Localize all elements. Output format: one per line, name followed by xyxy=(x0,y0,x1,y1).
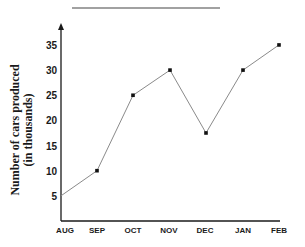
y-axis-label-wrap: Number of cars produced (in thousands) xyxy=(2,55,42,205)
data-point-marker xyxy=(168,68,172,72)
x-tick-label: SEP xyxy=(89,226,106,235)
x-tick-label: NOV xyxy=(160,226,178,235)
y-tick-label: 5 xyxy=(51,191,57,202)
data-point-marker xyxy=(241,68,245,72)
y-axis-label-line-2: (in thousands) xyxy=(22,64,35,195)
series-line xyxy=(61,45,279,196)
y-tick-label: 25 xyxy=(46,90,58,101)
x-tick-label: DEC xyxy=(197,226,214,235)
y-tick-label: 20 xyxy=(46,115,58,126)
y-tick-label: 30 xyxy=(46,65,58,76)
y-tick-labels: 5101520253035 xyxy=(46,40,58,202)
data-point-marker xyxy=(204,131,208,135)
axes xyxy=(58,23,280,221)
y-tick-label: 10 xyxy=(46,166,58,177)
y-tick-label: 35 xyxy=(46,40,58,51)
data-point-marker xyxy=(277,43,281,47)
data-point-marker xyxy=(131,93,135,97)
y-tick-label: 15 xyxy=(46,141,58,152)
x-tick-labels: AUGSEPOCTNOVDECJANFEB xyxy=(56,226,287,235)
x-tick-label: OCT xyxy=(125,226,142,235)
data-point-marker xyxy=(95,169,99,173)
x-tick-label: FEB xyxy=(271,226,287,235)
x-tick-label: AUG xyxy=(56,226,74,235)
line-chart: 5101520253035 AUGSEPOCTNOVDECJANFEB xyxy=(0,0,305,247)
y-axis-arrow-icon xyxy=(58,23,64,30)
x-tick-label: JAN xyxy=(235,226,251,235)
y-axis-label: Number of cars produced (in thousands) xyxy=(9,64,35,195)
